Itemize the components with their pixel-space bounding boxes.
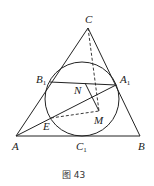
label-e: E xyxy=(42,120,50,132)
geometry-figure: C B1 A1 N M E A C1 B 图 43 xyxy=(0,0,154,186)
label-c: C xyxy=(85,13,93,25)
incircle xyxy=(45,62,119,136)
label-a: A xyxy=(11,140,19,152)
segment-nm xyxy=(85,83,99,111)
label-b1: B1 xyxy=(36,73,47,87)
segment-aa1 xyxy=(16,85,116,136)
label-m: M xyxy=(93,114,104,126)
figure-caption: 图 43 xyxy=(62,170,85,180)
label-a1: A1 xyxy=(119,73,131,87)
label-b: B xyxy=(138,140,145,152)
label-n: N xyxy=(73,84,82,96)
label-c1: C1 xyxy=(76,140,87,154)
segment-b1a1 xyxy=(50,82,116,85)
